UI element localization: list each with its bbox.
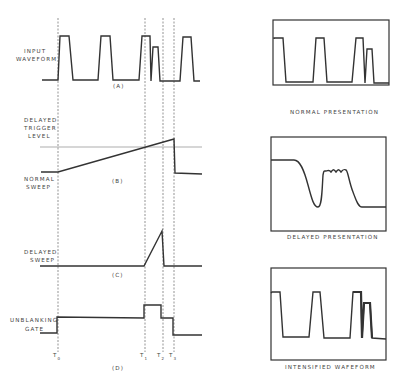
screen-intensified-waveform: INTENSIFIED WAFEFORM <box>271 268 386 370</box>
input-label-line2: WAVEFORM <box>16 56 57 62</box>
intensified-segment <box>353 292 372 338</box>
time-marker-lines <box>58 18 174 352</box>
intensified-waveform-caption: INTENSIFIED WAFEFORM <box>285 364 376 370</box>
gate-label-line2: GATE <box>25 326 44 332</box>
screen-frame <box>271 137 386 231</box>
screen-frame <box>271 268 386 360</box>
normal-presentation-trace <box>274 38 389 83</box>
normal-sweep-label-line1: NORMAL <box>24 176 55 182</box>
input-waveform-trace <box>42 36 200 81</box>
panel-b-label: (B) <box>112 178 124 184</box>
t3-label: T3 <box>168 352 177 361</box>
panel-a-label: (A) <box>113 83 125 89</box>
panel-a-input-waveform: INPUT WAVEFORM (A) <box>16 36 200 89</box>
t1-label: T1 <box>139 352 148 361</box>
t0-label: T0 <box>52 352 61 361</box>
unblanking-gate-trace <box>40 305 202 335</box>
panel-b-normal-sweep: DELAYED TRIGGER LEVEL NORMAL SWEEP (B) <box>23 117 202 190</box>
panel-d-label: (D) <box>112 365 124 371</box>
normal-sweep-trace <box>41 139 202 174</box>
panel-c-label: (C) <box>112 272 124 278</box>
panel-d-unblanking-gate: UNBLANKING GATE T0 T1 T2 T3 (D) <box>10 305 202 371</box>
delayed-presentation-caption: DELAYED PRESENTATION <box>287 234 379 240</box>
t2-label: T2 <box>156 352 165 361</box>
time-marker-labels: T0 T1 T2 T3 <box>52 352 177 361</box>
delayed-presentation-trace <box>271 160 386 207</box>
panel-c-delayed-sweep: DELAYED SWEEP (C) <box>24 231 202 278</box>
delayed-sweep-label-line2: SWEEP <box>30 257 55 263</box>
delayed-sweep-diagram: INPUT WAVEFORM (A) DELAYED TRIGGER LEVEL… <box>0 0 405 390</box>
intensified-waveform-trace <box>271 292 386 339</box>
trigger-level-label-line2: TRIGGER <box>23 125 57 131</box>
trigger-level-label-line1: DELAYED <box>24 117 57 123</box>
screen-normal-presentation: NORMAL PRESENTATION <box>273 20 389 115</box>
delayed-sweep-trace <box>40 231 202 266</box>
delayed-sweep-label-line1: DELAYED <box>24 249 57 255</box>
normal-presentation-caption: NORMAL PRESENTATION <box>290 109 379 115</box>
screen-delayed-presentation: DELAYED PRESENTATION <box>271 137 386 240</box>
trigger-level-label-line3: LEVEL <box>28 133 51 139</box>
gate-label-line1: UNBLANKING <box>10 317 58 323</box>
input-label-line1: INPUT <box>24 48 46 54</box>
normal-sweep-label-line2: SWEEP <box>26 184 51 190</box>
